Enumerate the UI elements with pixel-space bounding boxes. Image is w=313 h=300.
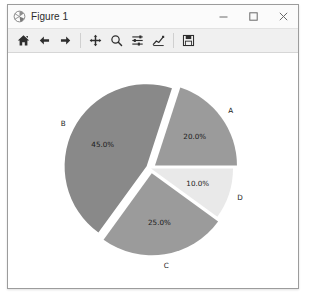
minimize-button[interactable] <box>208 5 238 28</box>
maximize-icon <box>248 11 259 22</box>
figure-toolbar <box>8 29 298 53</box>
back-button[interactable] <box>34 30 55 51</box>
save-floppy-icon <box>182 34 195 47</box>
figure-canvas-area[interactable]: 20.0%A45.0%B25.0%C10.0%D <box>8 53 298 288</box>
close-icon <box>278 11 289 22</box>
zoom-button[interactable] <box>106 30 127 51</box>
pie-pct-c: 25.0% <box>148 218 171 227</box>
title-bar: Figure 1 <box>8 5 298 29</box>
configure-sliders-icon <box>131 34 144 47</box>
toolbar-separator <box>80 33 81 48</box>
save-button[interactable] <box>178 30 199 51</box>
figure-window: Figure 1 <box>7 4 299 289</box>
zoom-magnifier-icon <box>110 34 123 47</box>
pan-button[interactable] <box>85 30 106 51</box>
edit-curve-icon <box>152 34 165 47</box>
back-arrow-icon <box>38 34 51 47</box>
pie-pct-d: 10.0% <box>186 179 209 188</box>
minimize-icon <box>218 11 229 22</box>
pie-pct-a: 20.0% <box>183 132 206 141</box>
edit-axis-button[interactable] <box>148 30 169 51</box>
pie-pct-b: 45.0% <box>91 140 114 149</box>
toolbar-separator-2 <box>173 33 174 48</box>
pie-label-c: C <box>164 261 169 270</box>
maximize-button[interactable] <box>238 5 268 28</box>
pie-label-a: A <box>228 106 233 115</box>
close-button[interactable] <box>268 5 298 28</box>
home-button[interactable] <box>13 30 34 51</box>
pie-label-b: B <box>61 119 66 128</box>
configure-subplots-button[interactable] <box>127 30 148 51</box>
home-icon <box>17 34 30 47</box>
pan-move-icon <box>89 34 102 47</box>
pie-label-d: D <box>237 193 243 202</box>
matplotlib-icon <box>13 10 26 23</box>
forward-arrow-icon <box>59 34 72 47</box>
window-title: Figure 1 <box>31 11 208 22</box>
forward-button[interactable] <box>55 30 76 51</box>
pie-chart: 20.0%A45.0%B25.0%C10.0%D <box>8 53 298 288</box>
